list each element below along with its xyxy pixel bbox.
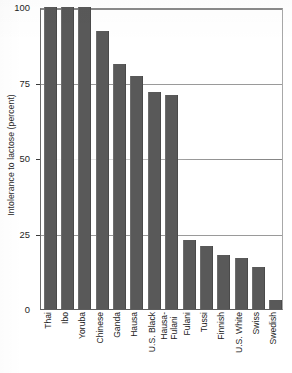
x-label-swiss: Swiss xyxy=(248,312,265,372)
bar xyxy=(113,64,126,309)
y-tick-label-75: 75 xyxy=(8,79,30,88)
x-label-text: Swedish xyxy=(270,312,280,344)
x-label-text: Ganda xyxy=(113,312,123,338)
bar xyxy=(217,255,230,309)
x-label-text: Fulani xyxy=(183,312,193,335)
x-label-text: Tussi xyxy=(200,312,210,332)
bar xyxy=(148,92,161,309)
x-label-text: Hausa-Fulani xyxy=(161,312,180,340)
x-label-fulani: Fulani xyxy=(179,312,196,372)
bar xyxy=(200,246,213,309)
x-label-text: U.S. White xyxy=(235,312,245,353)
bar xyxy=(252,267,265,309)
x-axis-category-labels: ThaiIboYorubaChineseGandaHausaU.S. Black… xyxy=(40,312,283,373)
bar xyxy=(269,300,282,309)
x-label-ibo: Ibo xyxy=(57,312,74,372)
x-label-text: Hausa xyxy=(131,312,141,337)
y-tick-label-50: 50 xyxy=(8,154,30,163)
bar xyxy=(61,7,74,309)
x-label-text: Ibo xyxy=(61,312,71,324)
lactose-intolerance-bar-chart: Intolerance to lactose (percent) 0255075… xyxy=(0,0,292,373)
y-tick-label-0: 0 xyxy=(8,305,30,314)
y-tick-label-100: 100 xyxy=(8,3,30,12)
x-label-text: Swiss xyxy=(252,312,262,334)
x-label-finnish: Finnish xyxy=(214,312,231,372)
bar xyxy=(44,7,57,309)
x-label-text: U.S. Black xyxy=(148,312,158,352)
x-label-swedish: Swedish xyxy=(266,312,283,372)
x-label-yoruba: Yoruba xyxy=(75,312,92,372)
bar xyxy=(235,258,248,309)
bar xyxy=(183,240,196,309)
plot-area xyxy=(40,8,283,310)
x-label-hausa-fulani: Hausa-Fulani xyxy=(162,312,179,372)
bar xyxy=(165,95,178,309)
x-label-text: Yoruba xyxy=(79,312,89,339)
x-label-text: Chinese xyxy=(96,312,106,344)
x-label-ganda: Ganda xyxy=(109,312,126,372)
x-label-text: Finnish xyxy=(217,312,227,340)
x-label-thai: Thai xyxy=(40,312,57,372)
x-label-chinese: Chinese xyxy=(92,312,109,372)
x-label-u-s-white: U.S. White xyxy=(231,312,248,372)
bar xyxy=(78,7,91,309)
y-tick-label-25: 25 xyxy=(8,230,30,239)
x-label-hausa: Hausa xyxy=(127,312,144,372)
x-label-tussi: Tussi xyxy=(196,312,213,372)
bar xyxy=(96,31,109,309)
x-label-text: Thai xyxy=(44,312,54,329)
bar xyxy=(130,76,143,309)
bars-layer xyxy=(41,9,282,309)
